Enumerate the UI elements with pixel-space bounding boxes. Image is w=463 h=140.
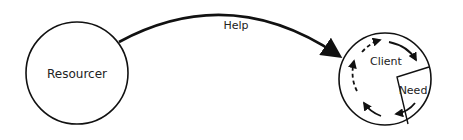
resourcer-label: Resourcer <box>47 67 107 81</box>
client-label: Client <box>370 55 403 68</box>
client-circle <box>339 33 431 125</box>
client-node: Client Need <box>339 33 431 125</box>
help-label: Help <box>223 19 248 32</box>
resourcer-node: Resourcer <box>26 22 128 124</box>
cycle-arrow-top-dashed <box>362 40 380 52</box>
cycle-arrow-bottom-left <box>364 103 381 116</box>
help-edge: Help <box>119 15 338 55</box>
need-label: Need <box>399 84 428 97</box>
cycle-arrow-left-dashed <box>353 61 357 91</box>
help-diagram: Resourcer Help Client Need <box>0 0 463 140</box>
